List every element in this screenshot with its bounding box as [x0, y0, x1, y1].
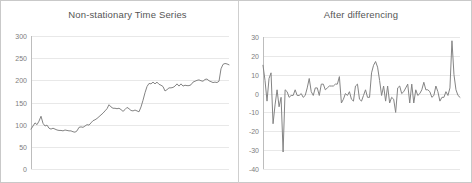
figure-container: Non-stationary Time Series 0501001502002…: [0, 0, 472, 183]
chart-panel-non-stationary: Non-stationary Time Series 0501001502002…: [1, 1, 238, 183]
plot-area-left: [31, 36, 229, 169]
chart-panel-after-differencing: After differencing -40-30-20-100102030: [238, 1, 472, 183]
y-axis-tick-label: 0: [240, 90, 259, 97]
y-axis-tick-label: -10: [240, 109, 259, 116]
plot-area-right: [263, 37, 460, 169]
y-axis-tick-label: -20: [240, 128, 259, 135]
line-chart-left: [31, 36, 229, 169]
chart-title-left: Non-stationary Time Series: [1, 9, 238, 20]
y-axis-tick-label: 200: [3, 77, 27, 84]
y-axis-tick-label: -30: [240, 147, 259, 154]
y-axis-tick-label: 30: [240, 34, 259, 41]
gridlines-right: [263, 38, 460, 170]
line-chart-right: [263, 37, 460, 169]
data-series-right: [263, 41, 460, 152]
y-axis-tick-label: 300: [3, 33, 27, 40]
chart-title-right: After differencing: [239, 9, 472, 20]
y-axis-tick-label: 20: [240, 52, 259, 59]
gridlines-left: [31, 37, 229, 170]
y-axis-tick-label: -40: [240, 166, 259, 173]
y-axis-tick-label: 10: [240, 71, 259, 78]
y-axis-tick-label: 150: [3, 99, 27, 106]
y-axis-tick-label: 50: [3, 143, 27, 150]
y-axis-tick-label: 250: [3, 55, 27, 62]
y-axis-tick-label: 100: [3, 121, 27, 128]
data-series-left: [31, 63, 229, 132]
y-axis-tick-label: 0: [3, 166, 27, 173]
